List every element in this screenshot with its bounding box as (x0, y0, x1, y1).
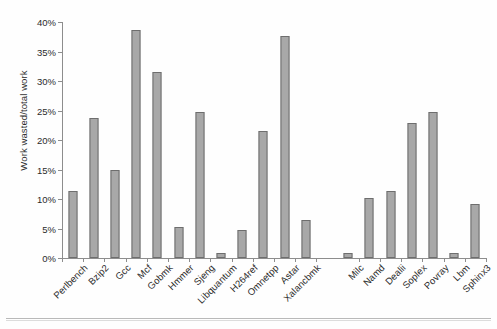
bar[interactable] (344, 253, 353, 258)
y-tick-label: 35% (37, 46, 56, 57)
bar-slot (104, 22, 125, 258)
bar-slot (338, 22, 359, 258)
bar-slot (126, 22, 147, 258)
bar-slot (359, 22, 380, 258)
x-tick-label: Gcc (112, 262, 132, 282)
y-tick-label: 5% (42, 223, 56, 234)
bar-slot (422, 22, 443, 258)
bar-slot (444, 22, 465, 258)
bar-slot (465, 22, 486, 258)
bar[interactable] (428, 112, 437, 258)
y-tick-label: 30% (37, 76, 56, 87)
y-tick-label: 0% (42, 253, 56, 264)
x-tick (168, 258, 169, 262)
x-tick (189, 258, 190, 262)
bar-series (62, 22, 486, 258)
bar[interactable] (132, 30, 141, 258)
bar-slot (253, 22, 274, 258)
bar-slot (295, 22, 316, 258)
y-tick-label: 25% (37, 105, 56, 116)
bar[interactable] (153, 72, 162, 258)
chart-figure: Work wasted/total work 0%5%10%15%20%25%3… (0, 0, 497, 329)
bar-slot (210, 22, 231, 258)
x-tick (444, 258, 445, 262)
x-tick (62, 258, 63, 262)
bar[interactable] (174, 227, 183, 258)
bar-slot (147, 22, 168, 258)
x-tick-label: Namd (361, 262, 387, 288)
x-tick (104, 258, 105, 262)
bar[interactable] (216, 253, 225, 258)
x-tick (401, 258, 402, 262)
x-tick (274, 258, 275, 262)
y-tick-label: 40% (37, 17, 56, 28)
bar[interactable] (407, 123, 416, 258)
x-tick (422, 258, 423, 262)
bar[interactable] (238, 230, 247, 258)
bar[interactable] (259, 131, 268, 258)
bar[interactable] (110, 170, 119, 258)
bar[interactable] (68, 191, 77, 258)
bar-slot (401, 22, 422, 258)
x-tick (316, 258, 317, 262)
x-tick (210, 258, 211, 262)
x-tick-label: Perlbench (51, 262, 90, 301)
page-divider-shadow (6, 320, 491, 321)
page-divider (6, 318, 491, 319)
bar[interactable] (450, 253, 459, 258)
bar-slot (83, 22, 104, 258)
bar-slot (380, 22, 401, 258)
y-tick-label: 10% (37, 194, 56, 205)
bar[interactable] (280, 36, 289, 258)
x-tick (232, 258, 233, 262)
x-tick (295, 258, 296, 262)
bar-slot (62, 22, 83, 258)
bar[interactable] (301, 220, 310, 258)
x-tick (126, 258, 127, 262)
bar[interactable] (365, 198, 374, 258)
y-tick-label: 15% (37, 164, 56, 175)
y-axis-title: Work wasted/total work (18, 21, 29, 221)
x-tick (486, 258, 487, 262)
y-tick-label: 20% (37, 135, 56, 146)
bar-slot (189, 22, 210, 258)
x-tick (359, 258, 360, 262)
x-tick (83, 258, 84, 262)
plot-area: 0%5%10%15%20%25%30%35%40% (62, 22, 486, 258)
bar[interactable] (471, 204, 480, 258)
bar-slot (274, 22, 295, 258)
x-tick (465, 258, 466, 262)
bar[interactable] (89, 118, 98, 258)
bar[interactable] (195, 112, 204, 258)
bar-slot (168, 22, 189, 258)
x-tick-label: Bzip2 (86, 262, 111, 287)
x-tick (380, 258, 381, 262)
bar-slot (232, 22, 253, 258)
bar[interactable] (386, 191, 395, 258)
